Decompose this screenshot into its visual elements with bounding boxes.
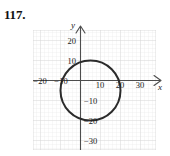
x-tick-label--20: −20 xyxy=(33,76,46,86)
graph-figure: −20 −10 10 20 30 20 10 −10 −20 −30 y x xyxy=(0,0,170,156)
y-tick-label--30: −30 xyxy=(84,136,97,146)
y-tick-label--10: −10 xyxy=(84,96,97,106)
coordinate-plane-svg: −20 −10 10 20 30 20 10 −10 −20 −30 y x xyxy=(0,0,170,156)
y-tick-label--20: −20 xyxy=(84,116,97,126)
grid-major-lines xyxy=(33,30,156,150)
y-axis-variable-label: y xyxy=(70,20,75,30)
x-tick-label-20: 20 xyxy=(116,80,125,90)
x-tick-label-10: 10 xyxy=(96,80,105,90)
figure-page: 117. xyxy=(0,0,170,156)
y-tick-label-10: 10 xyxy=(68,56,77,66)
grid-background xyxy=(33,30,156,150)
x-axis-variable-label: x xyxy=(157,82,162,92)
x-tick-label--10: −10 xyxy=(54,76,67,86)
x-tick-label-30: 30 xyxy=(136,80,145,90)
y-tick-label-20: 20 xyxy=(68,36,77,46)
